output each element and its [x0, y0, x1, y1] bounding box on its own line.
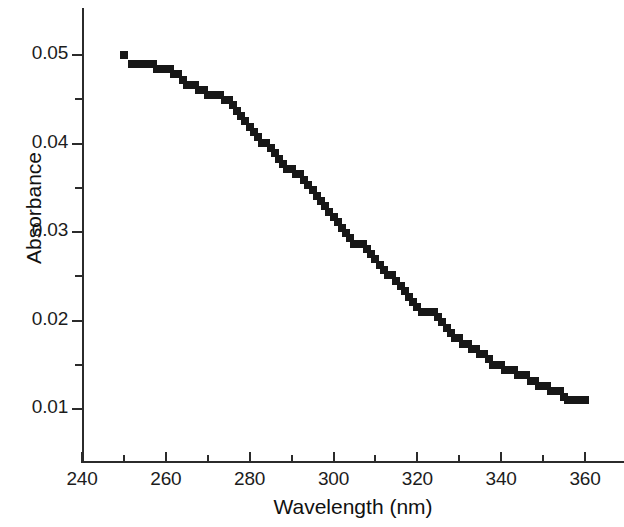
data-point-marker	[191, 81, 199, 89]
x-axis-minor-tick	[542, 455, 544, 463]
data-point-marker	[547, 387, 555, 395]
data-point-marker	[451, 334, 459, 342]
x-axis-minor-tick	[374, 455, 376, 463]
data-point-marker	[434, 313, 442, 321]
data-point-marker	[459, 340, 467, 348]
data-point-marker	[221, 96, 229, 104]
data-point-marker	[187, 81, 195, 89]
data-point-marker	[225, 96, 233, 104]
data-point-marker	[246, 123, 254, 131]
data-point-marker	[258, 139, 266, 147]
x-axis-tick-label: 340	[461, 468, 541, 490]
y-axis-tick	[72, 231, 83, 233]
data-point-marker	[384, 271, 392, 279]
data-point-marker	[128, 60, 136, 68]
data-point-marker	[489, 361, 497, 369]
y-axis-tick-label: 0.01	[10, 396, 68, 418]
x-axis-minor-tick	[291, 455, 293, 463]
data-point-marker	[241, 117, 249, 125]
data-point-marker	[497, 361, 505, 369]
data-point-marker	[321, 202, 329, 210]
data-point-marker	[195, 86, 203, 94]
x-axis-tick-label: 300	[294, 468, 374, 490]
y-axis-minor-tick	[75, 364, 83, 366]
data-point-marker	[556, 387, 564, 395]
x-axis-tick-label: 320	[377, 468, 457, 490]
data-point-marker	[267, 144, 275, 152]
x-axis-tick	[500, 452, 502, 463]
x-axis-minor-tick	[207, 455, 209, 463]
data-point-marker	[309, 186, 317, 194]
data-point-marker	[577, 396, 585, 404]
data-point-marker	[367, 250, 375, 258]
y-axis-title: Absorbance	[22, 88, 46, 328]
data-point-marker	[413, 303, 421, 311]
y-axis-line	[82, 8, 84, 463]
y-axis-minor-tick	[75, 98, 83, 100]
data-point-marker	[418, 308, 426, 316]
data-point-marker	[120, 51, 128, 59]
data-point-marker	[501, 366, 509, 374]
data-series-markers	[0, 0, 624, 527]
y-axis-tick	[72, 54, 83, 56]
data-point-marker	[552, 387, 560, 395]
data-point-marker	[455, 334, 463, 342]
x-axis-tick-label: 280	[210, 468, 290, 490]
data-point-marker	[208, 91, 216, 99]
data-point-marker	[174, 70, 182, 78]
data-point-marker	[183, 81, 191, 89]
data-point-marker	[330, 213, 338, 221]
data-point-marker	[237, 112, 245, 120]
data-point-marker	[539, 382, 547, 390]
x-axis-tick	[165, 452, 167, 463]
data-point-marker	[426, 308, 434, 316]
data-point-marker	[392, 277, 400, 285]
data-point-marker	[200, 86, 208, 94]
data-point-marker	[527, 377, 535, 385]
data-point-marker	[166, 65, 174, 73]
data-point-marker	[275, 155, 283, 163]
y-axis-tick	[72, 320, 83, 322]
data-point-marker	[405, 293, 413, 301]
data-point-marker	[342, 229, 350, 237]
data-point-marker	[514, 371, 522, 379]
y-axis-tick	[72, 143, 83, 145]
data-point-marker	[447, 329, 455, 337]
x-axis-title: Wavelength (nm)	[82, 495, 624, 519]
data-point-marker	[363, 245, 371, 253]
data-point-marker	[313, 192, 321, 200]
x-axis-minor-tick	[123, 455, 125, 463]
data-point-marker	[355, 240, 363, 248]
data-point-marker	[325, 208, 333, 216]
data-point-marker	[204, 91, 212, 99]
data-point-marker	[535, 382, 543, 390]
data-point-marker	[153, 65, 161, 73]
data-point-marker	[422, 308, 430, 316]
x-axis-tick	[81, 452, 83, 463]
data-point-marker	[233, 107, 241, 115]
data-point-marker	[292, 170, 300, 178]
data-point-marker	[250, 128, 258, 136]
data-point-marker	[162, 65, 170, 73]
data-point-marker	[443, 324, 451, 332]
y-axis-minor-tick	[75, 275, 83, 277]
absorbance-spectrum-chart: 0.010.020.030.040.0524026028030032034036…	[0, 0, 624, 527]
data-point-marker	[254, 133, 262, 141]
data-point-marker	[296, 170, 304, 178]
data-point-marker	[464, 340, 472, 348]
data-point-marker	[543, 382, 551, 390]
data-point-marker	[158, 65, 166, 73]
data-point-marker	[401, 287, 409, 295]
data-point-marker	[522, 371, 530, 379]
y-axis-minor-tick	[75, 187, 83, 189]
data-point-marker	[145, 60, 153, 68]
x-axis-tick-label: 360	[545, 468, 624, 490]
data-point-marker	[573, 396, 581, 404]
data-point-marker	[518, 371, 526, 379]
data-point-marker	[170, 70, 178, 78]
data-point-marker	[388, 271, 396, 279]
x-axis-minor-tick	[458, 455, 460, 463]
data-point-marker	[212, 91, 220, 99]
data-point-marker	[283, 165, 291, 173]
x-axis-tick	[416, 452, 418, 463]
